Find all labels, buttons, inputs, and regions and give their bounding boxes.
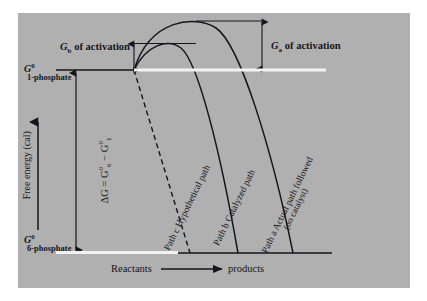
level-label-6-phosphate: G0 6-phosphate: [24, 233, 71, 253]
delta-g-label: ΔG = G06 − G01: [98, 113, 113, 229]
delta-g-lead: ΔG = G: [99, 171, 110, 204]
level-label-1-phosphate: G0 1-phosphate: [24, 62, 71, 82]
delta-g-sub-6: 6: [105, 163, 113, 167]
x-axis-label-reactants: Reactants: [111, 263, 152, 274]
y-axis-label: Free energy (cal): [22, 110, 33, 220]
g6-superscript: 0: [31, 233, 34, 240]
x-axis-label-products: products: [228, 263, 264, 274]
delta-g-minus: − G: [99, 145, 110, 164]
ga-symbol: G: [271, 40, 279, 51]
delta-g-sup-6: 0: [97, 167, 105, 171]
g1-subscript-text: 1-phosphate: [27, 73, 71, 82]
delta-g-sup-1: 0: [97, 141, 105, 145]
delta-g-sub-1: 1: [105, 137, 113, 141]
ga-text: of activation: [282, 40, 340, 51]
figure-page: Gb of activation Ga of activation G0 1-p…: [0, 0, 427, 301]
curve-path-a: [134, 22, 293, 253]
g1-superscript: 0: [31, 62, 34, 69]
gb-activation-label: Gb of activation: [60, 41, 130, 56]
gb-symbol: G: [60, 41, 68, 52]
g6-subscript-text: 6-phosphate: [27, 244, 71, 253]
gb-text: of activation: [72, 41, 130, 52]
ga-activation-label: Ga of activation: [271, 40, 340, 55]
